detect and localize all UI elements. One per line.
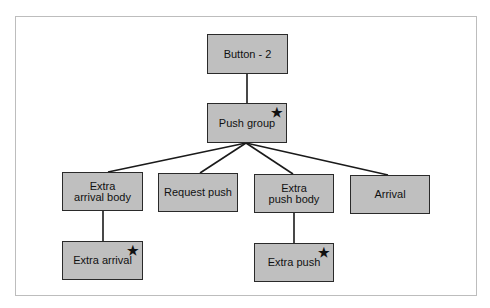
node-label: Arrival bbox=[374, 189, 405, 200]
node-extra-push-body[interactable]: Extra push body bbox=[254, 174, 334, 213]
node-label: Extra push body bbox=[269, 183, 320, 205]
node-label: Extra arrival bbox=[73, 255, 132, 266]
node-label: Push group bbox=[219, 118, 275, 129]
star-icon: ★ bbox=[318, 246, 330, 259]
node-label: Request push bbox=[164, 187, 232, 198]
node-label: Extra arrival body bbox=[74, 181, 131, 203]
node-arrival[interactable]: Arrival bbox=[350, 175, 430, 214]
node-extra-arrival[interactable]: Extra arrival ★ bbox=[62, 241, 143, 280]
node-extra-arrival-body[interactable]: Extra arrival body bbox=[62, 172, 143, 211]
node-extra-push[interactable]: Extra push ★ bbox=[254, 243, 334, 282]
node-request-push[interactable]: Request push bbox=[158, 173, 238, 212]
node-label: Extra push bbox=[268, 257, 321, 268]
edge-push-group-extra-arrival-body bbox=[108, 143, 246, 172]
star-icon: ★ bbox=[271, 106, 283, 119]
node-push-group[interactable]: Push group ★ bbox=[207, 103, 287, 143]
node-label: Button - 2 bbox=[224, 49, 272, 60]
star-icon: ★ bbox=[127, 244, 139, 257]
edge-push-group-arrival bbox=[246, 143, 388, 175]
node-button-2[interactable]: Button - 2 bbox=[207, 34, 288, 74]
